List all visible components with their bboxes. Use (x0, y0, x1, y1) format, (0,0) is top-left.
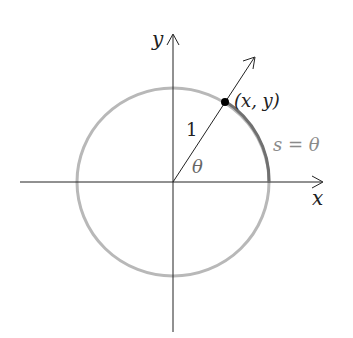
arc-s (225, 101, 269, 182)
x-axis (20, 176, 323, 188)
radius-label: 1 (186, 119, 197, 140)
angle-label: θ (192, 156, 203, 177)
y-axis (167, 34, 179, 332)
x-axis-label: x (312, 186, 323, 210)
arc-length-label: s = θ (273, 134, 320, 155)
point-marker (221, 98, 229, 106)
unit-circle-diagram: y x 1 θ (x, y) s = θ (0, 0, 353, 338)
y-axis-label: y (151, 27, 164, 51)
point-label: (x, y) (234, 90, 280, 111)
